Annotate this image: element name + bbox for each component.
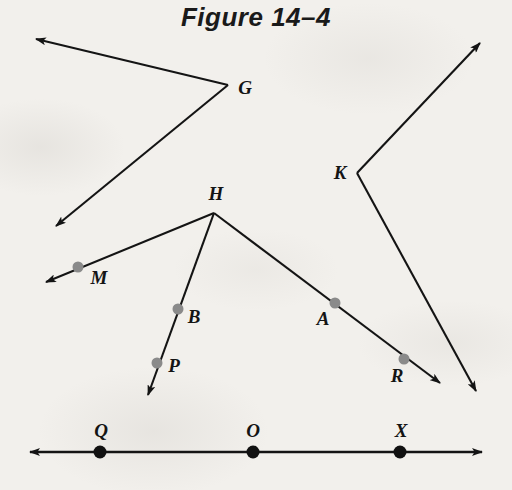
- ray-G-upper-left: [36, 39, 228, 85]
- ray-K-lower-right: [357, 173, 476, 391]
- ray-G-lower-left: [56, 85, 228, 226]
- point-label-p: P: [168, 355, 180, 377]
- point-marker-r: [399, 354, 410, 365]
- point-label-q: Q: [94, 420, 108, 442]
- point-label-a: A: [317, 308, 330, 330]
- point-marker-x: [394, 446, 407, 459]
- point-label-m: M: [91, 267, 108, 289]
- ray-K-upper-right: [357, 43, 480, 173]
- point-label-o: O: [246, 420, 260, 442]
- point-label-b: B: [188, 306, 201, 328]
- point-marker-p: [152, 358, 163, 369]
- figure-canvas: Figure 14–4 MBPARQOXGKH: [0, 0, 512, 490]
- point-marker-o: [247, 446, 260, 459]
- point-marker-a: [330, 298, 341, 309]
- vertex-label-h: H: [209, 183, 224, 205]
- point-label-r: R: [391, 365, 404, 387]
- vertex-label-g: G: [238, 77, 252, 99]
- rays-layer: [36, 39, 480, 395]
- point-marker-q: [94, 446, 107, 459]
- point-label-x: X: [395, 420, 408, 442]
- ray-H-through-M: [46, 213, 214, 282]
- points-layer: [73, 262, 410, 459]
- point-marker-m: [73, 262, 84, 273]
- point-marker-b: [173, 304, 184, 315]
- vertex-label-k: K: [334, 162, 347, 184]
- geometry-drawing: [0, 0, 512, 490]
